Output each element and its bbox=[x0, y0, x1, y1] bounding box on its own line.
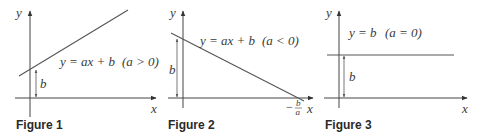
figure-caption: Figure 2 bbox=[168, 118, 215, 132]
figure-caption: Figure 1 bbox=[16, 118, 63, 132]
x-axis-label: x bbox=[461, 101, 468, 116]
y-axis-label: y bbox=[324, 5, 332, 20]
equation: y = ax + b bbox=[198, 33, 256, 48]
x-axis-label: x bbox=[306, 101, 313, 116]
intercept-label: b bbox=[349, 69, 356, 84]
intercept-label: b bbox=[169, 62, 176, 77]
figure-caption: Figure 3 bbox=[325, 118, 372, 132]
equation: y = ax + b bbox=[58, 54, 116, 69]
condition: (a = 0) bbox=[385, 25, 422, 40]
figure-3: y x b y = b (a = 0) Figure 3 bbox=[324, 5, 468, 132]
condition: (a < 0) bbox=[262, 33, 299, 48]
svg-text:−: − bbox=[286, 100, 293, 114]
y-axis-label: y bbox=[14, 5, 22, 20]
x-axis-label: x bbox=[150, 101, 157, 116]
y-axis-label: y bbox=[168, 5, 176, 20]
linear-functions-diagram: y x b y = ax + b (a > 0) Figure 1 y x b … bbox=[0, 0, 481, 140]
condition: (a > 0) bbox=[122, 54, 159, 69]
svg-text:a: a bbox=[296, 107, 301, 117]
equation: y = b bbox=[347, 25, 377, 40]
intercept-label: b bbox=[40, 76, 47, 91]
figure-2: y x b y = ax + b (a < 0) − b a Figure 2 bbox=[168, 5, 313, 132]
figure-1: y x b y = ax + b (a > 0) Figure 1 bbox=[14, 5, 159, 132]
x-intercept-label: − b a bbox=[286, 98, 302, 117]
